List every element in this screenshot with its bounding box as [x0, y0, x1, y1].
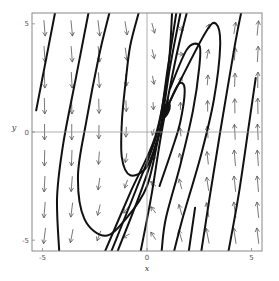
vector-arrow	[152, 23, 156, 33]
phase-portrait-chart: -505-505 x y	[0, 0, 279, 281]
vector-arrow	[178, 204, 182, 215]
vector-arrow	[232, 150, 236, 166]
vector-arrow	[97, 72, 101, 87]
trajectory-traj-3	[78, 13, 168, 236]
vector-arrow	[42, 228, 46, 244]
vector-arrow	[256, 21, 260, 36]
vector-arrow	[233, 99, 237, 114]
vector-arrow	[42, 202, 46, 218]
vector-arrow	[205, 100, 209, 111]
x-tick-label: 0	[145, 254, 149, 262]
trajectory-traj-13	[229, 78, 256, 251]
vector-arrow	[205, 177, 209, 191]
vector-arrow	[206, 75, 210, 85]
vector-arrow	[124, 21, 128, 35]
vector-arrow	[42, 98, 46, 114]
y-tick-label: 0	[25, 129, 29, 137]
vector-arrow	[42, 176, 46, 192]
vector-arrow	[151, 102, 155, 110]
vector-arrow	[70, 46, 74, 62]
vector-arrow	[255, 150, 259, 166]
y-axis-label: y	[11, 123, 17, 132]
vector-arrow	[124, 180, 128, 188]
vector-arrow	[97, 152, 101, 165]
vector-arrow	[178, 179, 182, 189]
vector-arrow	[232, 176, 236, 192]
vector-arrow	[124, 153, 128, 162]
vector-arrow	[70, 20, 74, 36]
vector-arrow	[255, 202, 259, 218]
vector-arrow	[256, 98, 260, 114]
trajectory-traj-1	[36, 13, 55, 110]
vector-arrow	[97, 99, 101, 114]
x-tick-label: -5	[39, 254, 46, 262]
vector-arrow	[97, 20, 101, 36]
vector-arrow	[96, 204, 100, 215]
vector-arrow	[151, 76, 155, 85]
vector-arrow	[69, 150, 73, 166]
y-tick-label: 5	[25, 20, 29, 28]
vector-arrow	[256, 46, 260, 62]
x-axis-label: x	[145, 264, 150, 273]
vector-arrow	[205, 152, 209, 165]
x-tick-label: 5	[249, 254, 253, 262]
vector-arrow	[124, 100, 128, 111]
vector-arrow	[255, 228, 259, 244]
vector-arrow	[69, 229, 73, 243]
y-tick-label: -5	[22, 237, 29, 245]
vector-arrow	[96, 178, 100, 190]
vector-arrow	[151, 232, 156, 240]
trajectory-traj-14	[189, 208, 195, 251]
vector-arrow	[151, 207, 156, 213]
vector-arrow	[151, 49, 155, 58]
vector-arrow	[43, 20, 47, 36]
vector-arrow	[206, 49, 210, 58]
vector-arrow	[233, 73, 237, 87]
vector-arrow	[42, 150, 46, 166]
vector-arrow	[255, 176, 259, 192]
vector-arrow	[69, 176, 73, 191]
vector-arrow	[69, 203, 73, 218]
